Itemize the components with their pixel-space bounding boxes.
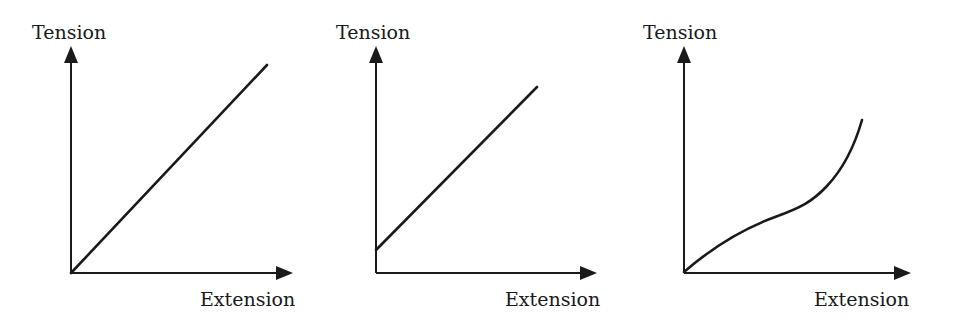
y-axis-arrow-icon <box>369 46 383 63</box>
s-shaped-curve <box>684 120 862 272</box>
linear-line-with-intercept <box>376 87 537 250</box>
x-axis-label: Extension <box>814 288 909 310</box>
tension-extension-figure: Tension Extension Tension Extension Tens… <box>0 0 956 325</box>
panel-1: Tension Extension <box>32 21 295 310</box>
y-axis-arrow-icon <box>677 46 691 63</box>
y-axis-label: Tension <box>32 21 106 43</box>
panel-2: Tension Extension <box>336 21 600 310</box>
y-axis-arrow-icon <box>64 46 78 63</box>
y-axis-label: Tension <box>336 21 410 43</box>
y-axis-label: Tension <box>643 21 717 43</box>
x-axis-arrow-icon <box>894 266 911 280</box>
x-axis-label: Extension <box>505 288 600 310</box>
linear-line-through-origin <box>71 65 267 273</box>
x-axis-arrow-icon <box>580 266 597 280</box>
x-axis-label: Extension <box>200 288 295 310</box>
x-axis-arrow-icon <box>276 266 293 280</box>
panel-3: Tension Extension <box>643 21 911 310</box>
